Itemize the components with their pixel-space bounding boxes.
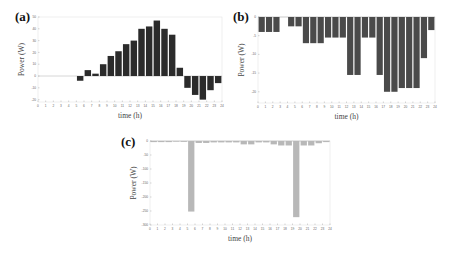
x-tick-label: 22 [205, 104, 209, 108]
bar-hour-2 [273, 17, 279, 32]
bar-hour-6 [303, 17, 309, 43]
bar-hour-8 [211, 141, 217, 142]
x-tick-label: 1 [157, 227, 159, 231]
y-tick-label: -10 [251, 52, 256, 56]
x-tick-label: 20 [298, 227, 302, 231]
bar-hour-11 [340, 17, 346, 38]
x-tick-label: 5 [187, 227, 189, 231]
x-tick-label: 4 [287, 105, 289, 109]
x-tick-label: 14 [359, 105, 363, 109]
bar-chart-b: 0-5-10-15-200123456789101112131415161718… [230, 0, 452, 128]
x-axis-title: time (h) [228, 234, 252, 243]
y-tick-label: -150 [142, 181, 149, 185]
x-tick-label: 5 [294, 105, 296, 109]
bar-hour-12 [241, 141, 247, 144]
x-tick-label: 8 [209, 227, 211, 231]
plot-frame [150, 141, 330, 225]
bar-hour-18 [391, 17, 397, 92]
x-tick-label: 17 [276, 227, 280, 231]
x-tick-label: 14 [144, 104, 148, 108]
bar-hour-17 [384, 17, 390, 92]
bar-hour-21 [200, 76, 206, 100]
bar-hour-1 [158, 141, 164, 142]
x-tick-label: 1 [264, 105, 266, 109]
x-tick-label: 2 [272, 105, 274, 109]
bar-hour-3 [173, 141, 179, 142]
bar-hour-21 [413, 17, 419, 88]
bar-hour-8 [318, 17, 324, 43]
bar-hour-22 [207, 76, 213, 90]
x-tick-label: 22 [418, 105, 422, 109]
x-tick-label: 3 [172, 227, 174, 231]
bar-hour-22 [316, 141, 322, 143]
bar-hour-12 [347, 17, 353, 75]
x-tick-label: 11 [337, 105, 341, 109]
x-tick-label: 0 [149, 227, 151, 231]
y-tick-label: -300 [142, 223, 149, 227]
chart-panel-a: (a) 50403020100-10-200123456789101112131… [0, 0, 230, 128]
bar-hour-15 [263, 141, 269, 142]
bar-hour-20 [301, 141, 307, 145]
x-tick-label: 7 [91, 104, 93, 108]
x-tick-label: 15 [261, 227, 265, 231]
x-tick-label: 16 [159, 104, 163, 108]
bar-hour-8 [100, 64, 106, 76]
x-tick-label: 9 [217, 227, 219, 231]
x-tick-label: 8 [98, 104, 100, 108]
x-tick-label: 15 [151, 104, 155, 108]
bar-hour-7 [92, 74, 98, 76]
x-tick-label: 9 [106, 104, 108, 108]
bar-hour-5 [77, 76, 83, 81]
bar-hour-0 [151, 141, 157, 142]
y-tick-label: 0 [146, 139, 148, 143]
x-tick-label: 21 [411, 105, 415, 109]
y-tick-label: -15 [251, 71, 256, 75]
x-tick-label: 24 [433, 105, 437, 109]
bar-hour-10 [115, 51, 121, 76]
bar-hour-18 [177, 68, 183, 76]
y-tick-label: 20 [32, 51, 36, 55]
bar-hour-11 [233, 141, 239, 142]
y-axis-title: Power (W) [17, 42, 26, 76]
y-tick-label: -5 [253, 34, 256, 38]
y-tick-label: 0 [34, 74, 36, 78]
bar-hour-23 [428, 17, 434, 30]
x-tick-label: 11 [231, 227, 235, 231]
x-tick-label: 2 [52, 104, 54, 108]
y-tick-label: 0 [254, 15, 256, 19]
bar-hour-19 [184, 76, 190, 88]
bar-hour-15 [369, 17, 375, 38]
x-axis-title: time (h) [118, 111, 142, 120]
x-tick-label: 19 [182, 104, 186, 108]
bar-hour-9 [218, 141, 224, 142]
bar-hour-16 [271, 141, 277, 144]
x-axis-title: time (h) [335, 112, 359, 121]
y-tick-label: 30 [32, 39, 36, 43]
bar-hour-16 [161, 29, 167, 76]
chart-panel-c: (c) 0-50-100-150-200-250-300012345678910… [110, 126, 340, 253]
y-tick-label: -20 [31, 98, 36, 102]
x-tick-label: 10 [113, 104, 117, 108]
x-tick-label: 9 [323, 105, 325, 109]
bar-hour-11 [123, 44, 129, 76]
bar-hour-13 [248, 141, 254, 144]
x-tick-label: 18 [174, 104, 178, 108]
y-tick-label: 10 [32, 62, 36, 66]
bar-hour-4 [288, 17, 294, 26]
y-tick-label: -250 [142, 209, 149, 213]
x-tick-label: 13 [136, 104, 140, 108]
x-tick-label: 7 [309, 105, 311, 109]
x-tick-label: 16 [268, 227, 272, 231]
bar-hour-20 [192, 76, 198, 95]
x-tick-label: 18 [283, 227, 287, 231]
x-tick-label: 12 [238, 227, 242, 231]
x-tick-label: 21 [306, 227, 310, 231]
bar-hour-0 [259, 17, 265, 32]
x-tick-label: 13 [352, 105, 356, 109]
y-tick-label: 50 [32, 15, 36, 19]
x-tick-label: 16 [374, 105, 378, 109]
x-tick-label: 17 [382, 105, 386, 109]
x-tick-label: 23 [426, 105, 430, 109]
bar-hour-19 [399, 17, 405, 88]
x-tick-label: 20 [404, 105, 408, 109]
